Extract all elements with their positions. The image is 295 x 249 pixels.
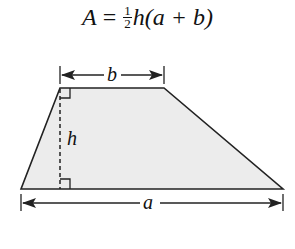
label-b: b: [107, 63, 117, 85]
label-a: a: [143, 191, 153, 213]
trapezoid-diagram: b h a: [0, 0, 295, 249]
label-h: h: [67, 127, 77, 149]
